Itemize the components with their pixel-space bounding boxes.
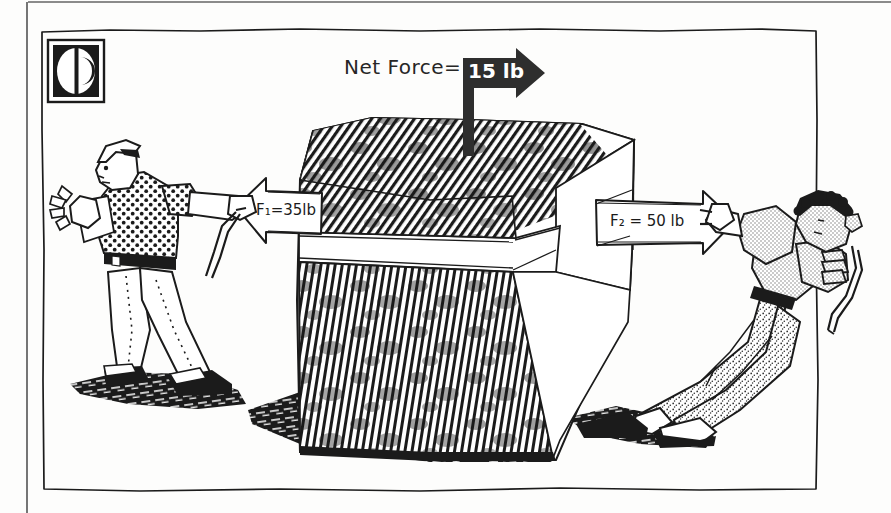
man-pulling-left bbox=[50, 140, 256, 396]
illustration-page: Net Force= 15 lb F₁=35lb F₂ = 50 lb bbox=[0, 0, 891, 513]
net-force-label: Net Force= bbox=[344, 55, 461, 79]
publisher-logo bbox=[48, 40, 104, 102]
net-force-value: 15 lb bbox=[468, 59, 524, 83]
force-left-label: F₁=35lb bbox=[256, 201, 316, 219]
force-right-label: F₂ = 50 lb bbox=[610, 212, 684, 230]
